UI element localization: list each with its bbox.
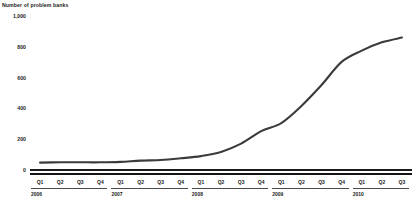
x-axis-rule — [30, 173, 412, 175]
year-group-rule — [192, 188, 268, 189]
y-tick-label-0: 0 — [0, 167, 26, 173]
y-tick-label-800: 800 — [0, 44, 26, 50]
x-tick-label: Q2 — [57, 178, 64, 186]
y-tick-label-600: 600 — [0, 75, 26, 81]
year-label: 2008 — [192, 190, 203, 198]
x-tick-label: Q1 — [37, 178, 44, 186]
x-axis-year-groups: 20062007200820092010 — [30, 188, 412, 202]
chart-title: Number of problem banks — [2, 2, 69, 9]
x-axis-line — [30, 169, 412, 171]
x-tick-label: Q2 — [378, 178, 385, 186]
x-axis-year-group: 2010 — [353, 188, 409, 202]
x-tick-label: Q3 — [77, 178, 84, 186]
year-label: 2009 — [272, 190, 283, 198]
x-tick-label: Q4 — [338, 178, 345, 186]
x-tick-label: Q4 — [258, 178, 265, 186]
year-label: 2007 — [111, 190, 122, 198]
x-tick-label: Q2 — [137, 178, 144, 186]
series-line-problem-banks — [40, 38, 402, 163]
chart-container: Number of problem banks 02004006008001,0… — [0, 0, 416, 202]
x-tick-label: Q1 — [117, 178, 124, 186]
x-tick-label: Q2 — [218, 178, 225, 186]
x-tick-label: Q3 — [157, 178, 164, 186]
y-tick-label-200: 200 — [0, 136, 26, 142]
x-axis-year-group: 2006 — [31, 188, 107, 202]
x-tick-label: Q1 — [278, 178, 285, 186]
year-label: 2006 — [31, 190, 42, 198]
year-group-rule — [31, 188, 107, 189]
x-tick-label: Q4 — [177, 178, 184, 186]
plot-area — [30, 16, 412, 170]
x-tick-label: Q2 — [298, 178, 305, 186]
x-tick-label: Q3 — [318, 178, 325, 186]
year-group-rule — [353, 188, 409, 189]
x-tick-label: Q4 — [97, 178, 104, 186]
year-group-rule — [111, 188, 187, 189]
x-tick-label: Q3 — [238, 178, 245, 186]
x-axis-year-group: 2008 — [192, 188, 268, 202]
year-label: 2010 — [353, 190, 364, 198]
y-tick-label-1000: 1,000 — [0, 13, 26, 19]
x-axis-year-group: 2007 — [111, 188, 187, 202]
x-axis-year-group: 2009 — [272, 188, 348, 202]
year-group-rule — [272, 188, 348, 189]
y-tick-label-400: 400 — [0, 105, 26, 111]
line-series-svg — [30, 16, 412, 170]
x-axis-quarter-labels: Q1Q2Q3Q4Q1Q2Q3Q4Q1Q2Q3Q4Q1Q2Q3Q4Q1Q2Q3 — [30, 178, 412, 187]
x-tick-label: Q1 — [198, 178, 205, 186]
x-tick-label: Q1 — [358, 178, 365, 186]
x-tick-label: Q3 — [399, 178, 406, 186]
